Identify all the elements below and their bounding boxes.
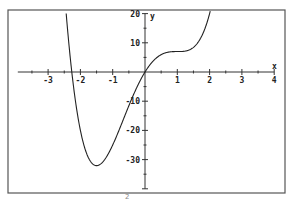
x-tick-label: 4 bbox=[272, 76, 277, 85]
x-tick-label: -3 bbox=[43, 76, 53, 85]
x-axis-label: x bbox=[272, 62, 277, 71]
y-tick-label: -30 bbox=[126, 156, 141, 165]
x-tick-label: -1 bbox=[108, 76, 118, 85]
function-plot: -3-2-112342010-10-20-30 x y bbox=[0, 0, 289, 203]
y-tick-label: 20 bbox=[130, 10, 140, 19]
x-tick-label: 1 bbox=[175, 76, 180, 85]
y-axis-label: y bbox=[150, 12, 155, 21]
x-tick-label: 3 bbox=[239, 76, 244, 85]
tick-labels: -3-2-112342010-10-20-30 bbox=[43, 10, 277, 165]
caption-fragment: 2 bbox=[125, 193, 129, 201]
x-tick-label: -2 bbox=[76, 76, 86, 85]
y-tick-label: -10 bbox=[126, 97, 141, 106]
x-tick-label: 2 bbox=[207, 76, 212, 85]
y-tick-label: -20 bbox=[126, 126, 141, 135]
function-curve bbox=[66, 11, 210, 166]
y-tick-label: 10 bbox=[130, 39, 140, 48]
